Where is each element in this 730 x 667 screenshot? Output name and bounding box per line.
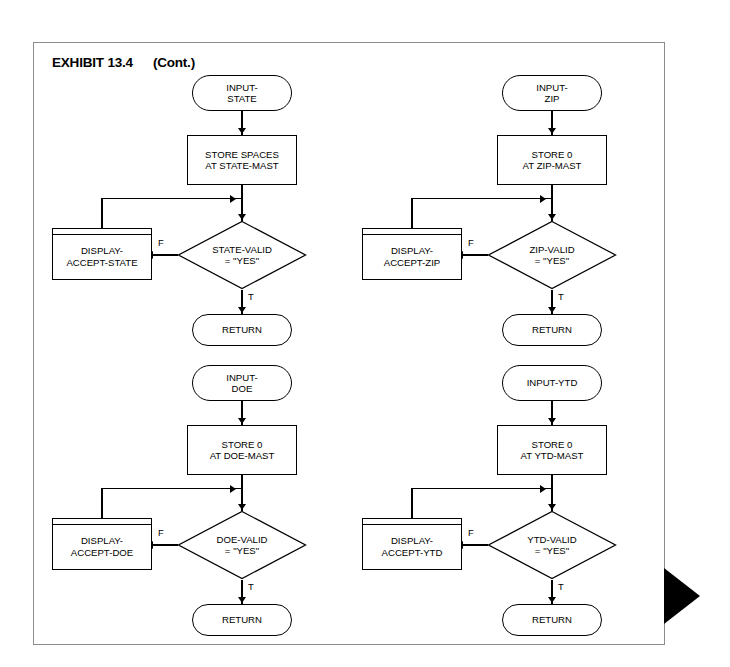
decision-diamond: STATE-VALID= "YES" <box>177 220 307 290</box>
arrowhead-down-return <box>548 597 556 603</box>
flowchart-ytd: INPUT-YTD STORE 0AT YTD-MAST YTD-VALID= … <box>352 355 652 615</box>
page-marker-triangle-icon <box>664 568 700 624</box>
display-label: DISPLAY-ACCEPT-ZIP <box>363 234 461 279</box>
terminator-end: RETURN <box>192 604 292 636</box>
decision-diamond: ZIP-VALID= "YES" <box>487 220 617 290</box>
connector-loop-horizontal <box>411 198 551 199</box>
arrowhead-down-process <box>238 418 246 424</box>
arrowhead-right-loop <box>540 195 546 203</box>
arrowhead-down-process <box>238 128 246 134</box>
label-true: T <box>248 291 254 302</box>
arrowhead-down-return <box>238 597 246 603</box>
decision-label: DOE-VALID= "YES" <box>177 510 307 580</box>
decision-label: STATE-VALID= "YES" <box>177 220 307 290</box>
process-box: STORE 0AT ZIP-MAST <box>497 135 607 185</box>
label-false: F <box>158 527 164 538</box>
connector-loop-horizontal <box>101 488 241 489</box>
arrowhead-right-loop <box>230 485 236 493</box>
decision-label: YTD-VALID= "YES" <box>487 510 617 580</box>
display-box: DISPLAY-ACCEPT-STATE <box>52 228 152 280</box>
exhibit-page: EXHIBIT 13.4(Cont.) INPUT-STATE STORE SP… <box>33 42 665 645</box>
connector-loop-vertical <box>101 198 102 228</box>
connector-loop-vertical <box>411 488 412 518</box>
display-box: DISPLAY-ACCEPT-ZIP <box>362 228 462 280</box>
process-box: STORE SPACESAT STATE-MAST <box>187 135 297 185</box>
connector-false-branch <box>460 544 488 545</box>
display-box: DISPLAY-ACCEPT-DOE <box>52 518 152 570</box>
connector-loop-vertical <box>411 198 412 228</box>
flowchart-doe: INPUT-DOE STORE 0AT DOE-MAST DOE-VALID= … <box>42 355 342 615</box>
connector-loop-horizontal <box>101 198 241 199</box>
label-false: F <box>468 237 474 248</box>
terminator-end: RETURN <box>502 314 602 346</box>
arrowhead-down-return <box>548 307 556 313</box>
label-true: T <box>558 581 564 592</box>
terminator-end: RETURN <box>192 314 292 346</box>
process-box: STORE 0AT YTD-MAST <box>497 425 607 475</box>
display-label: DISPLAY-ACCEPT-DOE <box>53 524 151 569</box>
arrowhead-down-process <box>548 128 556 134</box>
terminator-start: INPUT-STATE <box>192 75 292 111</box>
connector-false-branch <box>150 254 178 255</box>
flowchart-zip: INPUT-ZIP STORE 0AT ZIP-MAST ZIP-VALID= … <box>352 65 652 325</box>
terminator-start: INPUT-YTD <box>502 365 602 401</box>
label-false: F <box>468 527 474 538</box>
terminator-start: INPUT-ZIP <box>502 75 602 111</box>
connector-loop-horizontal <box>411 488 551 489</box>
label-true: T <box>248 581 254 592</box>
connector-false-branch <box>150 544 178 545</box>
process-box: STORE 0AT DOE-MAST <box>187 425 297 475</box>
terminator-start: INPUT-DOE <box>192 365 292 401</box>
display-label: DISPLAY-ACCEPT-STATE <box>53 234 151 279</box>
terminator-end: RETURN <box>502 604 602 636</box>
arrowhead-down-return <box>238 307 246 313</box>
arrowhead-down-process <box>548 418 556 424</box>
connector-false-branch <box>460 254 488 255</box>
display-box: DISPLAY-ACCEPT-YTD <box>362 518 462 570</box>
arrowhead-right-loop <box>540 485 546 493</box>
flowchart-state: INPUT-STATE STORE SPACESAT STATE-MAST ST… <box>42 65 342 325</box>
decision-diamond: DOE-VALID= "YES" <box>177 510 307 580</box>
connector-loop-vertical <box>101 488 102 518</box>
arrowhead-right-loop <box>230 195 236 203</box>
label-true: T <box>558 291 564 302</box>
decision-diamond: YTD-VALID= "YES" <box>487 510 617 580</box>
display-label: DISPLAY-ACCEPT-YTD <box>363 524 461 569</box>
label-false: F <box>158 237 164 248</box>
decision-label: ZIP-VALID= "YES" <box>487 220 617 290</box>
